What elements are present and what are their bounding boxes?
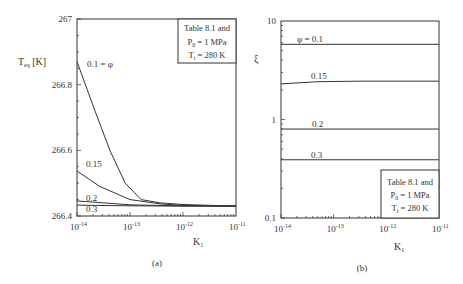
x-tick-label: 10-13 <box>327 223 344 234</box>
series-label-0: φ = 0.1 <box>297 34 323 44</box>
annotation-line-1: Table 8.1 and <box>387 177 434 187</box>
y-tick-label: 267 <box>59 14 73 24</box>
series-label-0: 0.1 = φ <box>87 59 113 69</box>
x-axis-title: K1 <box>193 236 203 248</box>
y-axis-title: ξ <box>254 53 259 65</box>
panel-caption-b: (b) <box>357 263 368 273</box>
annotation-box: Table 8.1 andP0 = 1 MPaTi = 280 K <box>178 19 236 63</box>
x-axis-title: K1 <box>394 241 404 253</box>
series-label-3: 0.3 <box>86 204 98 214</box>
annotation-box: Table 8.1 andP0 = 1 MPaTi = 280 K <box>381 170 439 218</box>
y-tick-label: 0.1 <box>265 213 276 223</box>
series-line-0 <box>77 62 236 206</box>
series-label-2: 0.2 <box>312 119 323 129</box>
series-line-1 <box>281 81 439 84</box>
y-axis-title: Teq [K] <box>18 56 46 68</box>
x-tick-label: 10-12 <box>379 223 396 234</box>
y-tick-label: 266.8 <box>52 80 73 90</box>
figure: 10-1410-1310-1210-11266.4266.6266.8267Te… <box>0 0 463 284</box>
chart-panel-a: 10-1410-1310-1210-11266.4266.6266.8267Te… <box>18 14 246 268</box>
series-label-1: 0.15 <box>311 71 327 81</box>
y-tick-label: 266.4 <box>52 211 73 221</box>
annotation-line-1: Table 8.1 and <box>184 23 231 33</box>
panel-caption-a: (a) <box>152 258 162 268</box>
series-label-2: 0.2 <box>86 193 97 203</box>
series-line-1 <box>77 171 236 206</box>
x-tick-label: 10-11 <box>432 223 449 234</box>
chart-panel-b: 10-1410-1310-1210-110.1110ξφ = 0.10.150.… <box>254 16 449 273</box>
x-tick-label: 10-13 <box>123 221 140 232</box>
x-tick-label: 10-11 <box>229 221 246 232</box>
y-tick-label: 266.6 <box>52 145 73 155</box>
y-tick-label: 1 <box>272 115 277 125</box>
series-label-3: 0.3 <box>311 150 323 160</box>
series-label-1: 0.15 <box>86 159 102 169</box>
y-tick-label: 10 <box>267 16 277 26</box>
x-tick-label: 10-14 <box>70 221 87 232</box>
x-tick-label: 10-12 <box>176 221 193 232</box>
x-tick-label: 10-14 <box>274 223 291 234</box>
